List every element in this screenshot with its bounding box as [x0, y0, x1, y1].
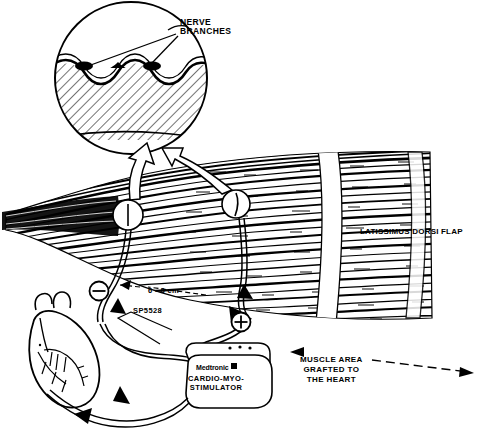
nerve-branches-label: NERVE BRANCHES — [180, 18, 231, 36]
negative-electrode — [90, 282, 109, 301]
medtronic-logo-square-icon — [231, 363, 237, 369]
muscle-area-grafted-label: MUSCLE AREA GRAFTED TO THE HEART — [300, 355, 363, 385]
latissimus-dorsi-flap-label: LATISSIMUS DORSI FLAP — [360, 228, 463, 236]
cardiomyoplasty-illustration: NERVE BRANCHES LATISSIMUS DORSI FLAP MUS… — [0, 0, 487, 438]
device-name-label: CARDIO-MYO- STIMULATOR — [188, 374, 244, 393]
illustration-canvas — [0, 0, 487, 438]
electrode-site-distal[interactable] — [222, 190, 250, 218]
electrode-site-proximal[interactable] — [113, 200, 143, 230]
positive-electrode — [232, 313, 251, 332]
electrode-spacing-label: 6 - 8 cm — [148, 287, 179, 295]
lead-model-label: SP5528 — [133, 307, 162, 315]
pulmonary-artery — [53, 292, 70, 308]
brand-label: Medtronic — [196, 364, 229, 371]
